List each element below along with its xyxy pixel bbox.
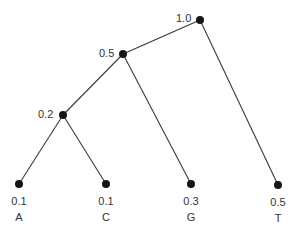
edge-root-to-T bbox=[200, 20, 278, 185]
leaf-node-C bbox=[102, 180, 110, 188]
leaf-T-weight: 0.5 bbox=[270, 196, 285, 208]
huffman-tree-diagram: 1.0 0.5 0.2 0.1 A 0.1 C 0.3 G 0.5 T bbox=[0, 0, 297, 234]
node-0.5 bbox=[119, 50, 127, 58]
leaf-G-symbol: G bbox=[187, 211, 196, 223]
node-0.2-weight-label: 0.2 bbox=[38, 108, 53, 120]
leaf-T-symbol: T bbox=[275, 212, 282, 224]
leaf-node-A bbox=[15, 180, 23, 188]
leaf-node-G bbox=[187, 180, 195, 188]
tree-edges bbox=[19, 20, 278, 185]
leaf-G-weight: 0.3 bbox=[183, 195, 198, 207]
edge-root-to-0.5 bbox=[123, 20, 200, 54]
edge-0.5-to-G bbox=[123, 54, 191, 184]
leaf-C-symbol: C bbox=[102, 211, 110, 223]
root-weight-label: 1.0 bbox=[176, 12, 191, 24]
leaf-node-T bbox=[274, 181, 282, 189]
edge-0.2-to-C bbox=[63, 115, 106, 184]
node-0.2 bbox=[59, 111, 67, 119]
edge-0.2-to-A bbox=[19, 115, 63, 184]
node-root bbox=[196, 16, 204, 24]
internal-labels: 1.0 0.5 0.2 bbox=[38, 12, 191, 120]
leaf-labels: 0.1 A 0.1 C 0.3 G 0.5 T bbox=[11, 195, 285, 224]
leaf-A-symbol: A bbox=[15, 211, 23, 223]
node-0.5-weight-label: 0.5 bbox=[99, 47, 114, 59]
leaf-C-weight: 0.1 bbox=[98, 195, 113, 207]
leaf-A-weight: 0.1 bbox=[11, 195, 26, 207]
edge-0.5-to-0.2 bbox=[63, 54, 123, 115]
